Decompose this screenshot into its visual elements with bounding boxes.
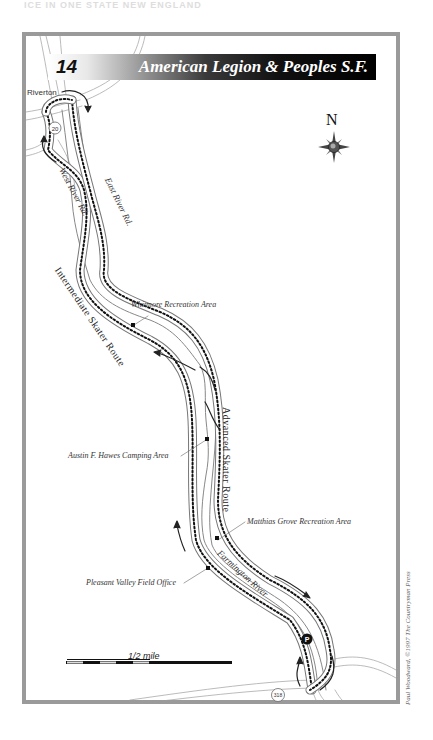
town-riverton: Riverton [27,88,57,97]
map-title: American Legion & Peoples S.F. [139,57,368,77]
compass-rose-icon [318,131,350,163]
north-label: N [326,111,338,129]
svg-text:P: P [305,636,310,643]
whitmore-marker [131,323,135,327]
poi-matthias-grove: Matthias Grove Recreation Area [247,517,351,526]
scale-label: 1/2 mile [128,651,160,661]
map-canvas: 20 318 P [0,0,433,740]
austin-hawes-marker [205,437,209,441]
parking-icon: P [302,634,313,645]
svg-text:20: 20 [52,126,59,132]
map-title-banner: 14 American Legion & Peoples S.F. [48,54,376,80]
poi-pleasant-valley: Pleasant Valley Field Office [86,578,176,587]
map-credit: Paul Woodward, ©1997 The Countryman Pres… [404,571,412,705]
route-shield-318-icon: 318 [272,689,285,702]
intermediate-skater-route [46,112,312,690]
pleasant-valley-marker [206,566,210,570]
poi-whitmore: Whitmore Recreation Area [131,300,216,309]
poi-austin-hawes: Austin F. Hawes Camping Area [68,451,169,460]
map-number: 14 [56,56,77,78]
svg-text:318: 318 [274,692,283,698]
advanced-route-label: Advanced Skater Route [221,407,232,512]
matthias-grove-marker [215,536,219,540]
route-shield-20-icon: 20 [49,122,61,134]
